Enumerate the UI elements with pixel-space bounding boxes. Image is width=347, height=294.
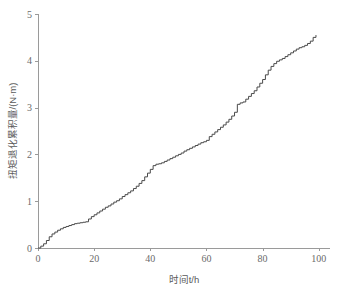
y-tick-label: 5 xyxy=(27,9,32,20)
y-tick-label: 3 xyxy=(27,102,32,113)
x-tick-label: 40 xyxy=(145,253,155,264)
chart-axes xyxy=(39,14,331,249)
degradation-curve xyxy=(38,35,316,248)
x-tick-label: 0 xyxy=(36,253,41,264)
chart-figure: 012345 020406080100 时间t/h 扭矩退化累积量/(N·m) xyxy=(0,0,347,294)
x-tick-label: 20 xyxy=(89,253,99,264)
x-axis-title: 时间t/h xyxy=(169,274,200,285)
x-tick-label: 100 xyxy=(311,253,326,264)
y-tick-label: 0 xyxy=(27,243,32,254)
chart-canvas: 012345 020406080100 时间t/h 扭矩退化累积量/(N·m) xyxy=(0,0,347,294)
y-tick-label: 4 xyxy=(27,55,32,66)
y-axis-ticks: 012345 xyxy=(27,9,38,254)
y-tick-label: 2 xyxy=(27,149,32,160)
x-tick-label: 60 xyxy=(201,253,211,264)
x-axis-ticks: 020406080100 xyxy=(36,248,327,264)
y-axis-title: 扭矩退化累积量/(N·m) xyxy=(7,83,18,180)
x-tick-label: 80 xyxy=(258,253,268,264)
y-tick-label: 1 xyxy=(27,196,32,207)
